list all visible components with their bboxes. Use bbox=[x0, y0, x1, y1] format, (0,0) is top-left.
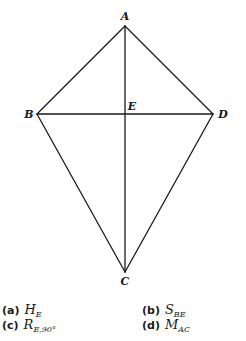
option-subscript: AC bbox=[178, 325, 190, 334]
vertex-label-a: A bbox=[120, 10, 130, 23]
vertex-label-b: B bbox=[23, 108, 33, 121]
option-letter: (d) bbox=[142, 319, 160, 332]
vertex-label-d: D bbox=[217, 108, 228, 121]
option-symbol: R bbox=[24, 317, 34, 332]
option-symbol: S bbox=[165, 302, 174, 317]
option-symbol: H bbox=[24, 302, 35, 317]
option-subscript: E,90° bbox=[33, 325, 56, 334]
option-letter: (b) bbox=[142, 304, 160, 317]
edge-ab bbox=[37, 26, 125, 114]
option-c: (c)RE,90° bbox=[2, 318, 56, 337]
option-letter: (a) bbox=[2, 304, 19, 317]
edge-bc bbox=[37, 114, 125, 272]
vertex-label-c: C bbox=[121, 275, 130, 288]
option-letter: (c) bbox=[2, 319, 19, 332]
edge-dc bbox=[125, 114, 213, 272]
option-symbol: M bbox=[165, 317, 178, 332]
edge-ad bbox=[125, 26, 213, 114]
option-d: (d)MAC bbox=[142, 318, 190, 337]
vertex-label-e: E bbox=[127, 100, 137, 113]
kite-diagram: A B D E C bbox=[0, 0, 246, 300]
